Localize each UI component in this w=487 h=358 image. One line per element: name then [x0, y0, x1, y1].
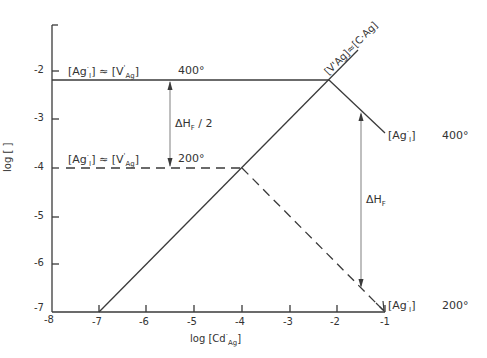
agi-400-label: [Ag·I]	[388, 128, 415, 144]
arrowhead-up-icon	[359, 112, 364, 121]
y-tick-label: -3	[34, 112, 44, 123]
line-400-agi-slope	[329, 80, 385, 133]
temp-200-right: 200°	[442, 299, 469, 312]
agi-200-label: [Ag·I]	[388, 298, 415, 314]
arrowhead-down-icon	[168, 158, 173, 167]
arrowhead-200-end	[376, 301, 384, 311]
delta-hf-half-label: ΔHF / 2	[175, 117, 213, 132]
temp-400-left: 400°	[178, 64, 205, 77]
x-tick-label: -1	[380, 316, 390, 327]
x-tick-label: -3	[283, 316, 293, 327]
eq-400-label: [Ag·I] ≈ [V'Ag]	[68, 64, 139, 80]
y-tick-label: -7	[34, 302, 44, 313]
x-tick-label: -7	[92, 316, 102, 327]
x-axis-title: log [Cd·Ag]	[190, 331, 241, 347]
y-tick-label: -2	[34, 64, 44, 75]
x-tick-label: -8	[44, 314, 54, 325]
y-tick-label: -5	[34, 210, 44, 221]
eq-200-label: [Ag·I] ≈ [V'Ag]	[68, 152, 139, 168]
y-tick-label: -4	[34, 161, 44, 172]
x-tick-label: -6	[139, 316, 149, 327]
y-axis-title: log [ ]	[2, 143, 13, 172]
temp-400-right: 400°	[442, 129, 469, 142]
line-200-agi-slope	[242, 168, 383, 310]
x-tick-label: -5	[187, 316, 197, 327]
x-tick-label: -2	[330, 316, 340, 327]
temp-200-left: 200°	[178, 152, 205, 165]
y-tick-label: -6	[34, 257, 44, 268]
arrowhead-up-icon	[168, 81, 173, 90]
delta-hf-label: ΔHF	[366, 193, 386, 208]
x-tick-label: -4	[235, 316, 245, 327]
diagonal-line-vag-cag	[99, 50, 358, 312]
